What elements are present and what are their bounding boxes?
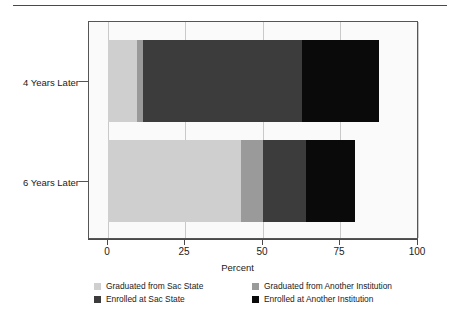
x-tick-0 [107,239,108,245]
bar-segment-graduated-sac-state[interactable] [108,40,137,122]
x-tick-50 [262,239,263,245]
x-tick-label-50: 50 [256,246,267,257]
legend-item-graduated-another-institution[interactable]: Graduated from Another Institution [252,282,422,290]
bar-segment-graduated-sac-state[interactable] [108,140,241,222]
legend-item-label: Graduated from Another Institution [264,282,392,290]
x-tick-label-100: 100 [409,246,426,257]
legend-item-label: Enrolled at Another Institution [264,295,373,303]
bar-segment-enrolled-another-institution[interactable] [302,40,380,122]
bar-segment-graduated-another-institution[interactable] [241,140,263,222]
legend-item-label: Enrolled at Sac State [106,295,185,303]
legend-swatch-icon [94,283,101,290]
y-axis-label-4-years: 4 Years Later [0,77,79,88]
y-axis-label-6-years: 6 Years Later [0,177,79,188]
x-tick-label-25: 25 [178,246,189,257]
bar-segment-enrolled-sac-state[interactable] [143,40,302,122]
x-tick-label-0: 0 [104,246,110,257]
x-tick-label-75: 75 [333,246,344,257]
bar-segment-enrolled-another-institution[interactable] [306,140,355,222]
legend-swatch-icon [252,283,259,290]
legend-item-label: Graduated from Sac State [106,282,203,290]
x-tick-75 [339,239,340,245]
legend-item-graduated-sac-state[interactable]: Graduated from Sac State [94,282,252,290]
y-tick-6-years [79,181,88,182]
chart-legend: Graduated from Sac State Graduated from … [94,282,414,304]
gridline-100 [418,22,419,238]
x-axis-line [88,239,418,240]
legend-swatch-icon [252,296,259,303]
legend-item-enrolled-sac-state[interactable]: Enrolled at Sac State [94,295,252,303]
x-tick-25 [184,239,185,245]
x-tick-100 [417,239,418,245]
y-axis-label-text: 4 Years Later [23,77,79,88]
legend-swatch-icon [94,296,101,303]
y-tick-4-years [79,81,88,82]
chart-figure: 4 Years Later 6 Years Later [0,0,453,334]
bar-segment-enrolled-sac-state[interactable] [263,140,306,222]
x-axis-title: Percent [0,262,453,273]
y-axis-label-text: 6 Years Later [23,177,79,188]
legend-item-enrolled-another-institution[interactable]: Enrolled at Another Institution [252,295,422,303]
plot-area [88,21,418,239]
